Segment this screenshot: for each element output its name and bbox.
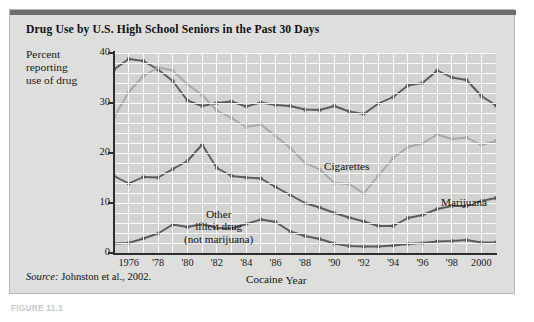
gridline-vertical — [422, 53, 423, 253]
gridline-vertical — [407, 53, 408, 253]
x-tick-label: '86 — [270, 257, 282, 268]
x-tick-label: '98 — [446, 257, 458, 268]
x-tick-label: '84 — [240, 257, 252, 268]
figure-card: Drug Use by U.S. High School Seniors in … — [9, 9, 515, 294]
y-tick-mark — [108, 102, 113, 103]
gridline-vertical — [466, 53, 467, 253]
gridline-vertical — [349, 53, 350, 253]
gridline-vertical — [246, 53, 247, 253]
x-tick-label: '92 — [358, 257, 370, 268]
gridline-vertical — [260, 53, 261, 253]
gridline-vertical — [305, 53, 306, 253]
gridline-vertical — [158, 53, 159, 253]
gridline-vertical — [334, 53, 335, 253]
gridline-vertical — [143, 53, 144, 253]
y-tick-label: 20 — [70, 146, 110, 157]
gridline-vertical — [275, 53, 276, 253]
gridline-vertical — [290, 53, 291, 253]
y-tick-label: 0 — [70, 246, 110, 257]
top-rule-decoration — [10, 10, 516, 15]
x-tick-label: 1976 — [118, 257, 139, 268]
y-axis-line — [113, 51, 115, 255]
gridline-vertical — [187, 53, 188, 253]
y-tick-mark — [108, 252, 113, 253]
x-axis-line — [113, 253, 497, 255]
gridline-vertical — [216, 53, 217, 253]
gridline-vertical — [202, 53, 203, 253]
x-tick-label: '80 — [181, 257, 193, 268]
gridline-vertical — [363, 53, 364, 253]
gridline-vertical — [172, 53, 173, 253]
source-label: Source: — [26, 271, 59, 282]
x-tick-label: '94 — [387, 257, 399, 268]
gridline-vertical — [319, 53, 320, 253]
x-tick-label: '96 — [416, 257, 428, 268]
source-note: Source: Johnston et al., 2002. — [26, 271, 151, 282]
gridline-vertical — [128, 53, 129, 253]
gridline-vertical — [496, 53, 497, 253]
x-tick-label: '78 — [152, 257, 164, 268]
y-tick-mark — [108, 202, 113, 203]
gridline-vertical — [481, 53, 482, 253]
gridline-vertical — [437, 53, 438, 253]
x-tick-label: 2000 — [471, 257, 492, 268]
plot-wrapper: 010203040 1976'78'80'82'84'86'88'90'92'9… — [96, 48, 496, 260]
y-tick-mark — [108, 52, 113, 53]
x-tick-label: '88 — [299, 257, 311, 268]
gridline-vertical — [378, 53, 379, 253]
x-tick-label: '82 — [211, 257, 223, 268]
y-tick-mark — [108, 152, 113, 153]
source-citation: Johnston et al., 2002. — [59, 271, 152, 282]
y-tick-label: 30 — [70, 96, 110, 107]
gridline-vertical — [231, 53, 232, 253]
chart-title: Drug Use by U.S. High School Seniors in … — [26, 23, 319, 36]
gridline-vertical — [451, 53, 452, 253]
figure-number-caption: FIGURE 11.1 — [11, 304, 63, 313]
x-tick-label: '90 — [328, 257, 340, 268]
y-tick-label: 40 — [70, 46, 110, 57]
x-axis-label: Year — [96, 274, 496, 286]
gridline-vertical — [393, 53, 394, 253]
y-tick-label: 10 — [70, 196, 110, 207]
plot-area — [114, 53, 496, 253]
